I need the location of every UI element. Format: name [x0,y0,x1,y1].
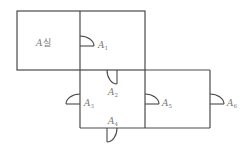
door-a3-icon [66,94,80,104]
svg-text:A실: A실 [35,38,51,48]
walls [17,11,210,128]
floor-plan-diagram: A실 A1 A2 A3 A4 A5 A6 [0,0,250,151]
door-a5-label: A5 [161,98,173,109]
door-a2-label: A2 [107,87,118,98]
door-a1-label: A1 [97,40,108,51]
door-a2-icon [107,70,117,84]
door-a6-icon [210,94,224,104]
door-a6-label: A6 [226,98,238,109]
door-a4-label: A4 [107,116,119,127]
door-a3-label: A3 [83,98,95,109]
room-a-label: A실 [35,38,51,48]
door-a1-icon [80,36,94,46]
door-a4-icon [107,128,117,142]
door-a5-icon [145,94,159,104]
